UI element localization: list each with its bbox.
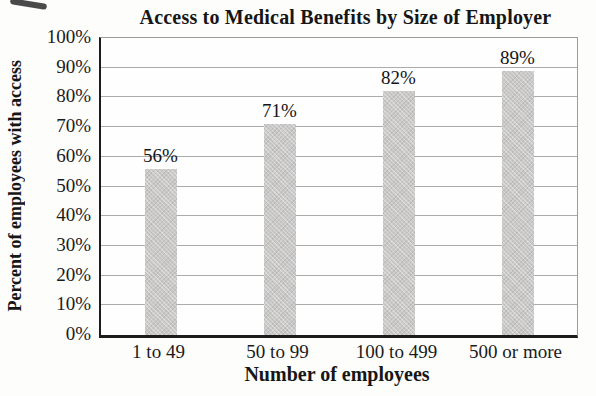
y-axis-tick-labels: 0%10%20%30%40%50%60%70%80%90%100% <box>0 0 91 396</box>
y-tick-label-30: 30% <box>0 234 91 256</box>
bar-chart-figure: Access to Medical Benefits by Size of Em… <box>0 0 596 396</box>
bar-500-or-more <box>502 71 534 335</box>
y-tick-label-90: 90% <box>0 56 91 78</box>
x-tick-label: 50 to 99 <box>218 341 337 362</box>
plot-area: 56%71%82%89% <box>99 37 578 338</box>
x-tick-label: 500 or more <box>456 341 575 362</box>
bar-1-to-49 <box>145 169 177 335</box>
bar-value-label: 71% <box>238 100 322 121</box>
y-tick-label-70: 70% <box>0 115 91 137</box>
bar-value-label: 89% <box>476 47 560 68</box>
y-tick-label-50: 50% <box>0 175 91 197</box>
x-tick-label: 100 to 499 <box>337 341 456 362</box>
y-tick-label-10: 10% <box>0 293 91 315</box>
y-tick-label-0: 0% <box>0 323 91 345</box>
x-axis-title: Number of employees <box>99 362 575 386</box>
y-tick-label-60: 60% <box>0 145 91 167</box>
bar-value-label: 82% <box>357 67 441 88</box>
chart-title: Access to Medical Benefits by Size of Em… <box>99 4 592 30</box>
bar-value-label: 56% <box>119 145 203 166</box>
y-tick-label-80: 80% <box>0 85 91 107</box>
y-tick-label-40: 40% <box>0 204 91 226</box>
bar-100-to-499 <box>383 91 415 335</box>
y-tick-label-20: 20% <box>0 264 91 286</box>
x-tick-label: 1 to 49 <box>99 341 218 362</box>
bar-50-to-99 <box>264 124 296 335</box>
y-tick-label-100: 100% <box>0 26 91 48</box>
